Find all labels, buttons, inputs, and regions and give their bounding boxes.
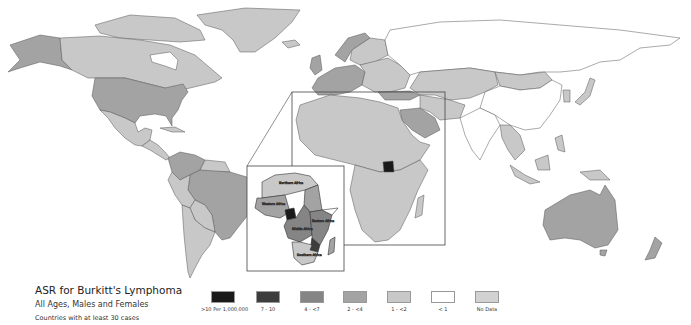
legend-label: 1 - <2 (377, 306, 421, 312)
legend-swatch (300, 291, 324, 303)
legend-label: 2 - <4 (333, 306, 377, 312)
legend-swatch (475, 291, 499, 303)
legend-swatch (387, 291, 411, 303)
legend-swatch (343, 291, 367, 303)
legend-item: >10 Per 1,000,000 (201, 291, 245, 312)
legend-label: No Data (465, 306, 509, 312)
legend-swatch (211, 291, 235, 303)
legend-item: 4 - <7 (290, 291, 334, 312)
legend-label: 7 - 10 (246, 306, 290, 312)
legend-label: >10 Per 1,000,000 (201, 306, 245, 312)
legend-item: < 1 (421, 291, 465, 312)
legend-label: 4 - <7 (290, 306, 334, 312)
legend-swatch (431, 291, 455, 303)
legend-item: 7 - 10 (246, 291, 290, 312)
legend-swatch (256, 291, 280, 303)
legend-label: < 1 (421, 306, 465, 312)
legend-item: No Data (465, 291, 509, 312)
legend: >10 Per 1,000,000 7 - 10 4 - <7 2 - <4 1… (0, 0, 691, 325)
legend-item: 2 - <4 (333, 291, 377, 312)
legend-item: 1 - <2 (377, 291, 421, 312)
